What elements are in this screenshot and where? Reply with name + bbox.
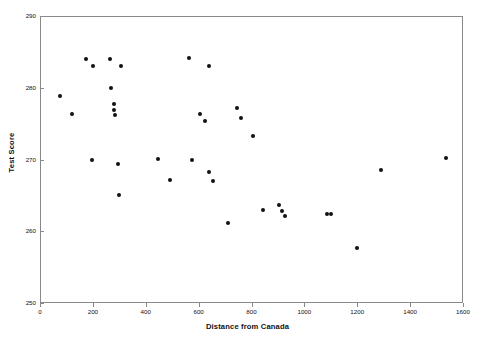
x-tick-label-0: 0 bbox=[20, 309, 60, 315]
data-point bbox=[207, 170, 211, 174]
x-tick-800 bbox=[252, 303, 253, 307]
data-point bbox=[444, 156, 448, 160]
data-point bbox=[198, 112, 202, 116]
x-tick-label-1600: 1600 bbox=[443, 309, 483, 315]
data-point bbox=[112, 102, 116, 106]
data-point bbox=[70, 112, 74, 116]
data-point bbox=[355, 246, 359, 250]
x-tick-0 bbox=[40, 303, 41, 307]
x-tick-label-800: 800 bbox=[232, 309, 272, 315]
data-point bbox=[211, 179, 215, 183]
data-point bbox=[283, 214, 287, 218]
data-point bbox=[203, 119, 207, 123]
plot-data-area bbox=[40, 16, 463, 303]
x-tick-1400 bbox=[410, 303, 411, 307]
data-point bbox=[117, 193, 121, 197]
x-tick-label-400: 400 bbox=[126, 309, 166, 315]
y-tick-label-280: 280 bbox=[10, 85, 36, 91]
x-tick-label-600: 600 bbox=[179, 309, 219, 315]
x-tick-1000 bbox=[304, 303, 305, 307]
data-point bbox=[226, 221, 230, 225]
data-point bbox=[277, 203, 281, 207]
x-tick-400 bbox=[146, 303, 147, 307]
x-tick-label-1200: 1200 bbox=[337, 309, 377, 315]
x-tick-1200 bbox=[357, 303, 358, 307]
data-point bbox=[235, 106, 239, 110]
data-point bbox=[156, 157, 160, 161]
scatter-plot-figure: Distance from Canada Test Score 25026027… bbox=[0, 0, 495, 343]
data-point bbox=[112, 108, 116, 112]
data-point bbox=[261, 208, 265, 212]
data-point bbox=[91, 64, 95, 68]
data-point bbox=[58, 94, 62, 98]
x-tick-600 bbox=[199, 303, 200, 307]
data-point bbox=[379, 168, 383, 172]
x-tick-label-1400: 1400 bbox=[390, 309, 430, 315]
y-tick-label-290: 290 bbox=[10, 13, 36, 19]
x-tick-1600 bbox=[463, 303, 464, 307]
data-point bbox=[251, 134, 255, 138]
data-point bbox=[207, 64, 211, 68]
x-tick-200 bbox=[93, 303, 94, 307]
data-point bbox=[116, 162, 120, 166]
x-tick-label-200: 200 bbox=[73, 309, 113, 315]
data-point bbox=[90, 158, 94, 162]
y-axis-title: Test Score bbox=[7, 118, 16, 188]
data-point bbox=[168, 178, 172, 182]
data-point bbox=[329, 212, 333, 216]
y-tick-label-260: 260 bbox=[10, 228, 36, 234]
data-point bbox=[239, 116, 243, 120]
data-point bbox=[190, 158, 194, 162]
data-point bbox=[280, 209, 284, 213]
data-point bbox=[84, 57, 88, 61]
y-tick-label-270: 270 bbox=[10, 157, 36, 163]
data-point bbox=[187, 56, 191, 60]
data-point bbox=[109, 86, 113, 90]
data-point bbox=[108, 57, 112, 61]
data-point bbox=[119, 64, 123, 68]
x-axis-title: Distance from Canada bbox=[0, 322, 495, 331]
y-tick-label-250: 250 bbox=[10, 300, 36, 306]
x-tick-label-1000: 1000 bbox=[284, 309, 324, 315]
data-point bbox=[113, 113, 117, 117]
